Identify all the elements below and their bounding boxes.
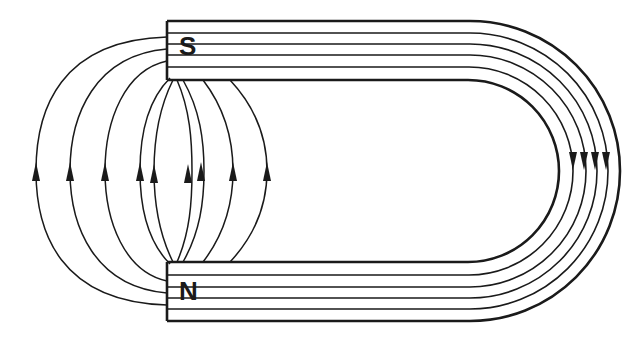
arrow-down-icon: [580, 152, 588, 170]
magnet-field-svg: [0, 0, 638, 343]
horseshoe-magnet-diagram: S N: [0, 0, 638, 343]
external-field-arrows: [32, 162, 271, 183]
arrow-up-icon: [184, 164, 192, 183]
arrow-down-icon: [569, 152, 577, 170]
arrow-up-icon: [229, 162, 237, 181]
magnet-body: [167, 21, 620, 321]
arrow-up-icon: [150, 164, 158, 183]
south-pole-label: S: [179, 33, 196, 59]
north-pole-label: N: [179, 278, 198, 304]
arrow-up-icon: [101, 162, 109, 181]
arrow-up-icon: [263, 162, 271, 181]
arrow-down-icon: [602, 152, 610, 170]
arrow-up-icon: [136, 162, 144, 181]
arrow-down-icon: [591, 152, 599, 170]
internal-flux-arrows: [569, 152, 610, 170]
arrow-up-icon: [32, 162, 40, 181]
arrow-up-icon: [66, 162, 74, 181]
